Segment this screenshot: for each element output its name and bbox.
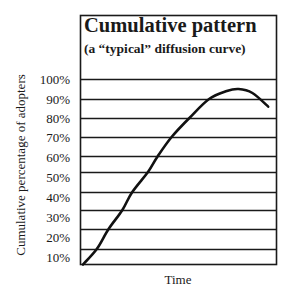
x-axis-label: Time <box>165 272 192 288</box>
y-axis-label: Cumulative percentage of adopters <box>13 74 29 256</box>
chart-title: Cumulative pattern <box>84 14 257 37</box>
y-tick-50: 50% <box>36 171 70 184</box>
y-tick-10: 10% <box>36 251 70 264</box>
y-tick-20: 20% <box>36 231 70 244</box>
y-tick-100: 100% <box>36 73 70 86</box>
y-tick-70: 70% <box>36 131 70 144</box>
diffusion-curve <box>83 89 268 265</box>
gridlines <box>81 80 277 250</box>
y-tick-30: 30% <box>36 211 70 224</box>
y-tick-60: 60% <box>36 151 70 164</box>
y-tick-40: 40% <box>36 191 70 204</box>
y-tick-80: 80% <box>36 112 70 125</box>
y-tick-90: 90% <box>36 93 70 106</box>
chart-subtitle: (a “typical” diffusion curve) <box>84 41 246 57</box>
